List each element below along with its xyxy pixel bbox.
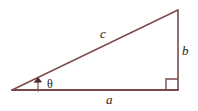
right-angle-marker-icon [166, 79, 178, 90]
label-opposite-b: b [182, 44, 189, 57]
hypotenuse-line-c [12, 10, 178, 90]
triangle-drawing [0, 0, 198, 111]
label-angle-theta: θ [47, 78, 53, 90]
label-hypotenuse-c: c [100, 27, 106, 40]
right-triangle-figure: c b a θ [0, 0, 198, 111]
label-adjacent-a: a [106, 93, 113, 106]
